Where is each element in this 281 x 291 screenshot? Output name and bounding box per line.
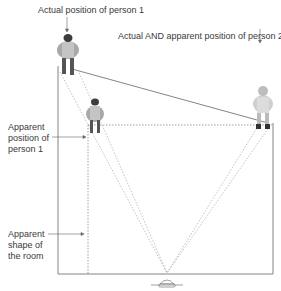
arrowhead-apparent-person1 [83, 136, 86, 139]
person2-shoe-right [265, 124, 270, 129]
person1-actual-leg-right [70, 58, 74, 75]
person1-actual-figure [57, 34, 79, 75]
label-actual-apparent-person2: Actual AND apparent position of person 2 [118, 31, 281, 42]
person1-apparent-torso [90, 106, 100, 120]
person1-actual-head [64, 34, 73, 42]
sight-line-person1-left [60, 72, 167, 273]
label-apparent-person1: Apparent position of person 1 [8, 122, 49, 155]
actual-room-outline [58, 66, 273, 274]
person2-shoe-left [256, 124, 261, 129]
person2-figure [253, 86, 273, 129]
person1-apparent-leg-left [90, 120, 93, 133]
label-apparent-room: Apparent shape of the room [8, 229, 45, 262]
arrowhead-actual-person1 [66, 29, 69, 32]
person1-apparent-figure [86, 99, 104, 134]
camera-dome [160, 280, 174, 284]
label-actual-person1: Actual position of person 1 [38, 5, 144, 16]
person1-apparent-head [91, 99, 99, 106]
person2-torso [257, 97, 269, 113]
arrowhead-apparent-room [81, 233, 84, 236]
pointers [48, 17, 262, 236]
camera-icon [151, 280, 183, 287]
person1-actual-leg-left [62, 58, 66, 74]
person2-head [258, 86, 268, 96]
person1-apparent-leg-right [97, 120, 100, 133]
sight-line-person2-right [167, 126, 270, 273]
sight-line-person1-right [78, 70, 167, 273]
sight-line-person2-left [167, 126, 258, 273]
camera-base [159, 284, 175, 287]
person1-actual-torso [62, 42, 74, 58]
